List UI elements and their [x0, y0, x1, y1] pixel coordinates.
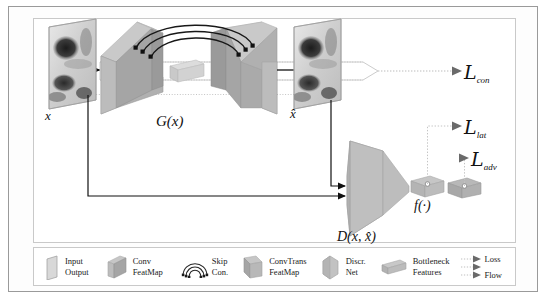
bottleneck-features-box — [170, 60, 204, 82]
legend-text-bottleneck-features: Bottleneck Features — [413, 256, 450, 277]
legend-line-net: Net — [346, 267, 366, 278]
legend-text-input-output: Input Output — [65, 256, 89, 277]
legend-line-conv: Conv — [133, 256, 163, 267]
legend-text-discr-net: Discr. Net — [346, 256, 366, 277]
loss-subscript-adv: adv — [484, 162, 497, 172]
legend: Input Output Conv FeatMap — [33, 247, 516, 286]
legend-item-skip-con: Skip Con. — [180, 248, 228, 286]
llat-flow-arrow — [428, 122, 463, 185]
input-image-plane — [48, 19, 96, 109]
feature-extractor-label: f(·) — [414, 198, 431, 214]
legend-item-flow-arrows: Loss Flow — [460, 248, 502, 286]
legend-line-featmap: FeatMap — [133, 267, 163, 278]
legend-line-bottleneck: Bottleneck — [413, 256, 450, 267]
legend-line-con: Con. — [212, 267, 228, 278]
output-label: x̂ — [290, 106, 296, 122]
loss-label-con: Lcon — [464, 61, 490, 85]
legend-item-convtrans-featmap: ConvTrans FeatMap — [242, 248, 306, 286]
legend-line-discr: Discr. — [346, 256, 366, 267]
x-to-discriminator-arrow — [88, 95, 345, 196]
loss-label-adv: Ladv — [471, 148, 497, 172]
feature-box-latent — [411, 176, 444, 197]
loss-label-lat: Llat — [464, 116, 486, 140]
input-label: x — [45, 108, 51, 124]
encoder-conv-featmap — [101, 22, 163, 114]
legend-line-loss: Loss — [485, 255, 502, 263]
dotted-arrow-icon — [460, 252, 484, 282]
loss-subscript-lat: lat — [477, 130, 487, 140]
legend-text-flow-arrows: Loss Flow — [485, 255, 502, 279]
legend-item-bottleneck-features: Bottleneck Features — [380, 248, 450, 286]
discriminator-label: D(x, x̂) — [337, 229, 376, 245]
loss-subscript-con: con — [477, 75, 490, 85]
generator-label: G(x) — [156, 113, 183, 130]
legend-line-input: Input — [65, 256, 89, 267]
legend-line-features: Features — [413, 267, 450, 278]
legend-line-convtrans-featmap: FeatMap — [269, 267, 306, 278]
legend-item-input-output: Input Output — [44, 248, 89, 286]
legend-item-discr-net: Discr. Net — [321, 248, 366, 286]
legend-line-convtrans: ConvTrans — [269, 256, 306, 267]
loss-symbol-adv: L — [471, 148, 484, 170]
parallelogram-plane-icon — [44, 254, 60, 280]
discriminator-trapezoid-icon — [321, 254, 341, 280]
legend-text-conv-featmap: Conv FeatMap — [133, 256, 163, 277]
output-image-plane — [293, 19, 341, 109]
legend-line-output: Output — [65, 267, 89, 278]
bottleneck-box-icon — [380, 257, 408, 277]
legend-text-convtrans-featmap: ConvTrans FeatMap — [269, 256, 306, 277]
legend-item-conv-featmap: Conv FeatMap — [106, 248, 163, 286]
figure-canvas: x x̂ G(x) D(x, x̂) f(·) Lcon Llat Ladv I… — [0, 0, 548, 301]
skip-arcs-icon — [180, 256, 210, 278]
xhat-to-discriminator-arrow — [331, 100, 345, 186]
loss-symbol-con: L — [464, 61, 477, 83]
feature-box-adversarial — [448, 178, 481, 198]
legend-line-skip: Skip — [212, 256, 228, 267]
conv-trapezoid-icon — [106, 254, 128, 280]
legend-line-flow: Flow — [485, 271, 502, 279]
discriminator-net — [347, 141, 409, 236]
loss-symbol-lat: L — [464, 116, 477, 138]
convtrans-trapezoid-icon — [242, 254, 264, 280]
legend-text-skip-con: Skip Con. — [212, 256, 228, 277]
